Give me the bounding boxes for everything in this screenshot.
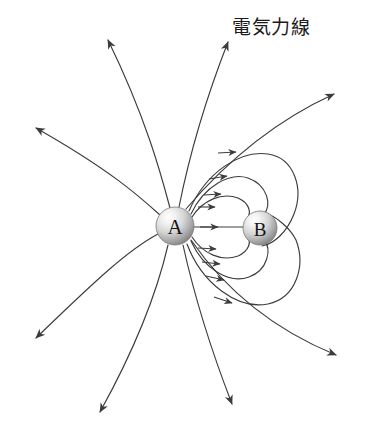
link-line-arc-top-mid [191,177,268,214]
field-line-annotation-label: 電気力線 [232,12,310,39]
charge-sphere-a: A [156,207,194,245]
field-lines-canvas: A B [0,0,367,448]
field-line-lower-left [36,234,158,338]
charge-b-label: B [254,219,267,240]
field-line-down-left [100,245,168,412]
field-line-upper-right [186,94,334,209]
arrowhead-bot-inner2 [202,262,220,264]
link-line-arc-bot-inner [192,235,249,258]
field-line-lower-right [191,240,336,355]
field-line-up-left [108,40,170,208]
field-line-upper-left [36,128,160,215]
field-line-down-right [183,245,232,404]
field-line-up-right [179,42,228,207]
charge-a-label: A [167,215,183,239]
arrowhead-top-outer [218,152,236,153]
arrowhead-bot-outer [214,297,232,303]
arrowhead-top-inner2 [204,194,221,195]
arrowhead-bot-inner [198,248,216,249]
charge-sphere-b: B [243,211,277,245]
electric-field-diagram: A B 電気力線 [0,0,367,448]
